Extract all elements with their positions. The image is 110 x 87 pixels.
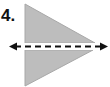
lower-triangle-half (25, 50, 93, 86)
upper-triangle-half (25, 4, 95, 43)
arrowhead-right-icon (100, 43, 108, 51)
arrowhead-left-icon (9, 43, 17, 51)
symmetry-figure (0, 0, 110, 87)
